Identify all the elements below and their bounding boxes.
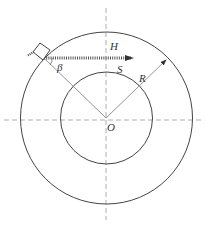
label-beta: β [56, 61, 63, 73]
label-s: S [117, 63, 123, 75]
ray-arrowhead [125, 55, 134, 61]
label-h: H [109, 40, 119, 52]
diagram-canvas: H S β R O [0, 0, 206, 226]
radius-arrow [106, 60, 166, 118]
label-r: R [138, 72, 146, 84]
concentric-circles-diagram: H S β R O [0, 0, 206, 226]
line-source-to-center [44, 58, 106, 118]
label-o: O [107, 121, 115, 133]
